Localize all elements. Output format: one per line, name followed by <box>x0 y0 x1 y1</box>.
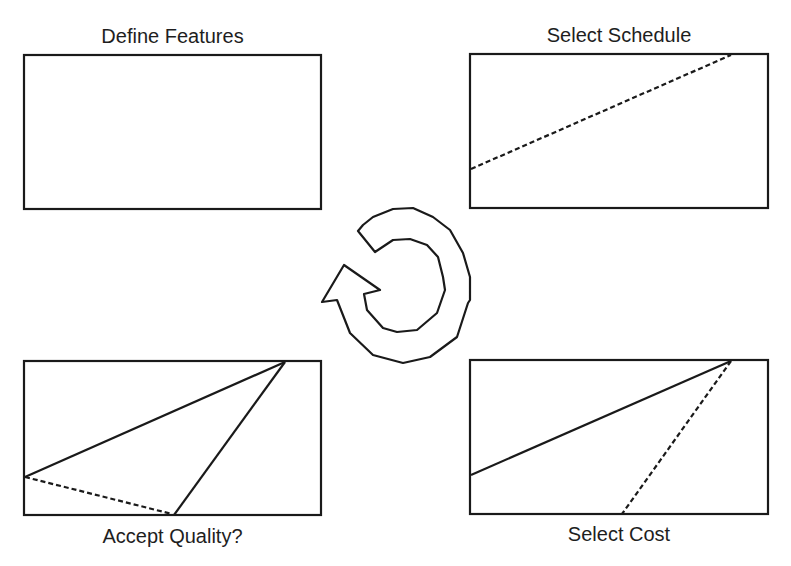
panel-select-schedule <box>470 54 768 208</box>
panel-frame <box>470 54 768 208</box>
panel-label-select-schedule: Select Schedule <box>470 23 768 47</box>
cost-solid-line <box>471 361 731 475</box>
panel-select-cost <box>470 360 768 514</box>
schedule-dashed-line <box>471 55 731 169</box>
diagram-canvas <box>0 0 791 566</box>
cycle-arrow-shape <box>322 208 470 363</box>
quality-solid-line-steep <box>174 362 285 515</box>
circular-arrow-icon <box>322 208 470 363</box>
panel-frame <box>24 55 321 209</box>
quality-solid-line-upper <box>25 362 285 477</box>
panel-accept-quality <box>24 361 321 515</box>
panel-frame <box>470 360 768 514</box>
panel-label-define-features: Define Features <box>24 24 321 48</box>
panel-define-features <box>24 55 321 209</box>
panel-label-accept-quality: Accept Quality? <box>24 524 321 548</box>
panel-label-select-cost: Select Cost <box>470 522 768 546</box>
panel-frame <box>24 361 321 515</box>
quality-dashed-line <box>25 477 172 514</box>
